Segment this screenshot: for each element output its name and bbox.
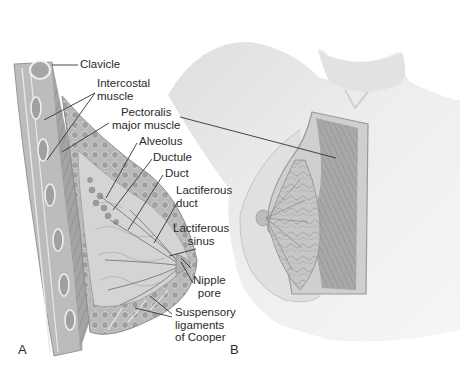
label-alveolus: Alveolus (139, 135, 182, 148)
label-pectoralis-line1: Pectoralis (112, 106, 180, 119)
panel-letter-b: B (230, 342, 239, 357)
label-nipple-pore-line2: pore (193, 287, 226, 300)
label-duct: Duct (165, 167, 189, 180)
label-intercostal-line1: Intercostal (97, 77, 150, 90)
label-intercostal-line2: muscle (97, 90, 150, 103)
label-pectoralis-line2: major muscle (112, 119, 180, 132)
label-lactiferous-duct-line2: duct (176, 197, 232, 210)
panel-letter-a: A (18, 342, 27, 357)
label-lactiferous-sinus: Lactiferous sinus (173, 222, 229, 247)
label-pectoralis-major-muscle: Pectoralis major muscle (112, 106, 180, 131)
label-ductule: Ductule (153, 151, 192, 164)
label-cooper-line2: ligaments (175, 319, 236, 332)
label-lactiferous-sinus-line1: Lactiferous (173, 222, 229, 235)
label-lactiferous-duct: Lactiferous duct (176, 184, 232, 209)
label-clavicle: Clavicle (80, 58, 120, 71)
label-suspensory-ligaments-of-cooper: Suspensory ligaments of Cooper (175, 306, 236, 344)
label-cooper-line1: Suspensory (175, 306, 236, 319)
breast-anatomy-figure: Clavicle Intercostal muscle Pectoralis m… (0, 0, 460, 371)
label-lactiferous-sinus-line2: sinus (173, 235, 229, 248)
label-cooper-line3: of Cooper (175, 331, 236, 344)
label-intercostal-muscle: Intercostal muscle (97, 77, 150, 102)
label-nipple-pore-line1: Nipple (193, 274, 226, 287)
label-lactiferous-duct-line1: Lactiferous (176, 184, 232, 197)
label-nipple-pore: Nipple pore (193, 274, 226, 299)
